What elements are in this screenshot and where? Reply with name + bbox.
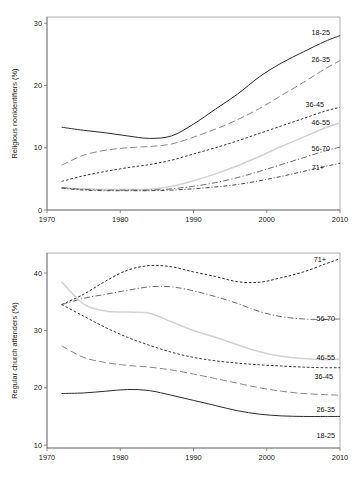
series-line-18-25 (62, 36, 340, 139)
x-tick-label: 1980 (112, 215, 128, 224)
figure-root: 010203019701980199020002010Religious non… (0, 0, 354, 478)
series-label-56-70: 56-70 (317, 314, 335, 323)
x-tick-label: 1990 (185, 215, 201, 224)
series-label-26-35: 26-35 (312, 55, 330, 64)
series-line-26-35 (62, 61, 340, 166)
series-label-18-25: 18-25 (317, 431, 335, 440)
x-tick-label: 2010 (332, 453, 348, 462)
x-tick-label: 2010 (332, 215, 348, 224)
y-tick-label: 10 (34, 143, 42, 152)
x-tick-label: 2000 (259, 215, 275, 224)
series-label-71plus: 71+ (312, 163, 324, 172)
series-group (62, 259, 340, 417)
regular-church-attenders-chart: 1020304019701980199020002010Regular chur… (0, 240, 354, 478)
series-line-46-55 (62, 282, 340, 360)
series-label-46-55: 46-55 (312, 118, 330, 127)
series-label-36-45: 36-45 (306, 100, 324, 109)
series-label-56-70: 56-70 (312, 144, 330, 153)
y-axis-title: Regular church attenders (%) (10, 302, 19, 399)
series-line-71plus (62, 163, 340, 190)
x-tick-label: 2000 (259, 453, 275, 462)
religious-nonidentifiers-chart: 010203019701980199020002010Religious non… (0, 0, 354, 240)
x-tick-label: 1970 (39, 215, 55, 224)
y-tick-label: 20 (34, 383, 42, 392)
series-label-18-25: 18-25 (312, 28, 330, 37)
plot-frame (47, 253, 340, 448)
series-label-71plus: 71+ (314, 255, 326, 264)
x-tick-label: 1980 (112, 453, 128, 462)
series-line-18-25 (62, 389, 340, 416)
y-tick-label: 30 (34, 326, 42, 335)
y-axis-title: Religious nonidentifiers (%) (10, 69, 19, 159)
series-group (62, 36, 340, 191)
y-tick-label: 30 (34, 19, 42, 28)
x-tick-label: 1990 (185, 453, 201, 462)
series-line-56-70 (62, 147, 340, 190)
series-line-36-45 (62, 107, 340, 181)
y-tick-label: 0 (38, 206, 42, 215)
y-tick-label: 40 (34, 269, 42, 278)
series-line-56-70 (62, 286, 340, 319)
y-tick-label: 20 (34, 81, 42, 90)
series-label-26-35: 26-35 (317, 405, 335, 414)
chart-panel-regular-church-attenders: 1020304019701980199020002010Regular chur… (0, 240, 354, 478)
series-line-26-35 (62, 346, 340, 395)
y-tick-label: 10 (34, 441, 42, 450)
chart-panel-religious-nonidentifiers: 010203019701980199020002010Religious non… (0, 0, 354, 240)
series-label-46-55: 46-55 (317, 353, 335, 362)
x-tick-label: 1970 (39, 453, 55, 462)
series-label-36-45: 36-45 (315, 372, 333, 381)
series-line-71plus (62, 259, 340, 305)
